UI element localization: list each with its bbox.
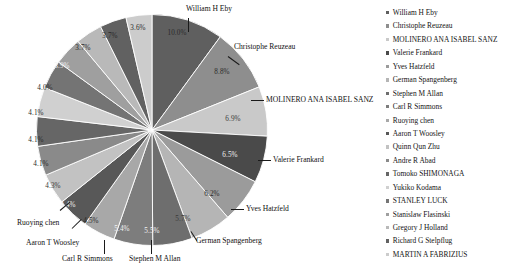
callout-label-7: Carl R Simmons xyxy=(62,254,113,263)
legend-item-label: German Spangenberg xyxy=(393,76,457,83)
legend-item-label: Ruoying chen xyxy=(393,117,434,124)
legend-swatch-icon xyxy=(386,92,389,95)
legend-item[interactable]: Richard G Stelpflug xyxy=(386,234,527,247)
leader-line-6 xyxy=(151,240,152,254)
callout-label-6: Stephen M Allan xyxy=(129,254,180,263)
leader-line-0 xyxy=(188,18,189,32)
legend-swatch-icon xyxy=(386,24,389,27)
legend-item-label: Christophe Reuzeau xyxy=(393,22,453,29)
legend-swatch-icon xyxy=(386,132,389,135)
legend-item-label: MOLINERO ANA ISABEL SANZ xyxy=(393,36,498,43)
leader-line-2 xyxy=(251,100,264,101)
callout-label-9: Ruoying chen xyxy=(17,218,59,227)
legend-item[interactable]: Yves Hatzfeld xyxy=(386,60,527,73)
legend-swatch-icon xyxy=(386,253,389,256)
legend-item[interactable]: Quinn Qun Zhu xyxy=(386,140,527,153)
legend-item-label: Yukiko Kodama xyxy=(393,184,441,191)
legend-item[interactable]: Gregory J Holland xyxy=(386,221,527,234)
legend-swatch-icon xyxy=(386,119,389,122)
callout-label-2: MOLINERO ANA ISABEL SANZ xyxy=(266,95,374,104)
legend-swatch-icon xyxy=(386,239,389,242)
legend-item[interactable]: Carl R Simmons xyxy=(386,100,527,113)
legend-swatch-icon xyxy=(386,186,389,189)
legend: William H EbyChristophe ReuzeauMOLINERO … xyxy=(386,6,527,268)
legend-item[interactable]: Stephen M Allan xyxy=(386,87,527,100)
legend-swatch-icon xyxy=(386,38,389,41)
legend-swatch-icon xyxy=(386,105,389,108)
legend-item[interactable]: Ruoying chen xyxy=(386,114,527,127)
legend-item-label: STANLEY LUCK xyxy=(393,197,448,204)
legend-item-label: Carl R Simmons xyxy=(393,103,442,110)
leader-line-3 xyxy=(258,160,271,161)
pie-chart-area: 10.0% 8.8% 6.9% 6.5% 6.2% 5.7% 5.5% 5.4%… xyxy=(0,0,372,271)
legend-item-label: Gregory J Holland xyxy=(393,224,448,231)
callout-label-4: Yves Hatzfeld xyxy=(246,204,289,213)
callout-label-3: Valerie Frankard xyxy=(273,155,324,164)
legend-item[interactable]: MARTIN A FABRIZIUS xyxy=(386,248,527,261)
legend-item-label: William H Eby xyxy=(393,9,438,16)
leader-line-7 xyxy=(104,240,105,254)
legend-item[interactable]: Stanislaw Flasinski xyxy=(386,208,527,221)
legend-item[interactable]: William H Eby xyxy=(386,6,527,19)
legend-item[interactable]: STANLEY LUCK xyxy=(386,194,527,207)
legend-item-label: Richard G Stelpflug xyxy=(393,237,453,244)
callout-label-5: German Spangenberg xyxy=(196,236,262,245)
legend-item-label: Tomoko SHIMONAGA xyxy=(393,170,465,177)
legend-item[interactable]: Andre R Abad xyxy=(386,154,527,167)
legend-item[interactable]: Yukiko Kodama xyxy=(386,181,527,194)
callout-label-0: William H Eby xyxy=(186,4,232,13)
chart-root: 10.0% 8.8% 6.9% 6.5% 6.2% 5.7% 5.5% 5.4%… xyxy=(0,0,527,271)
legend-swatch-icon xyxy=(386,226,389,229)
legend-item-label: Yves Hatzfeld xyxy=(393,63,435,70)
legend-swatch-icon xyxy=(386,145,389,148)
leader-line-4 xyxy=(231,209,244,210)
legend-swatch-icon xyxy=(386,51,389,54)
legend-swatch-icon xyxy=(386,199,389,202)
legend-item[interactable]: German Spangenberg xyxy=(386,73,527,86)
callout-label-1: Christophe Reuzeau xyxy=(234,42,295,51)
legend-item-label: Stephen M Allan xyxy=(393,90,443,97)
legend-item[interactable]: Tomoko SHIMONAGA xyxy=(386,167,527,180)
legend-item-label: Aaron T Woosley xyxy=(393,130,445,137)
legend-item-label: MARTIN A FABRIZIUS xyxy=(393,251,468,258)
legend-item-label: Valerie Frankard xyxy=(393,49,442,56)
legend-item[interactable]: Valerie Frankard xyxy=(386,46,527,59)
legend-swatch-icon xyxy=(386,65,389,68)
legend-item-label: Stanislaw Flasinski xyxy=(393,211,450,218)
legend-item[interactable]: MOLINERO ANA ISABEL SANZ xyxy=(386,33,527,46)
callout-label-8: Aaron T Woosley xyxy=(26,238,79,247)
legend-swatch-icon xyxy=(386,78,389,81)
legend-swatch-icon xyxy=(386,172,389,175)
legend-item[interactable]: Aaron T Woosley xyxy=(386,127,527,140)
legend-swatch-icon xyxy=(386,11,389,14)
legend-swatch-icon xyxy=(386,159,389,162)
legend-item[interactable]: Christophe Reuzeau xyxy=(386,19,527,32)
legend-swatch-icon xyxy=(386,213,389,216)
legend-item-label: Andre R Abad xyxy=(393,157,436,164)
legend-item-label: Quinn Qun Zhu xyxy=(393,143,440,150)
